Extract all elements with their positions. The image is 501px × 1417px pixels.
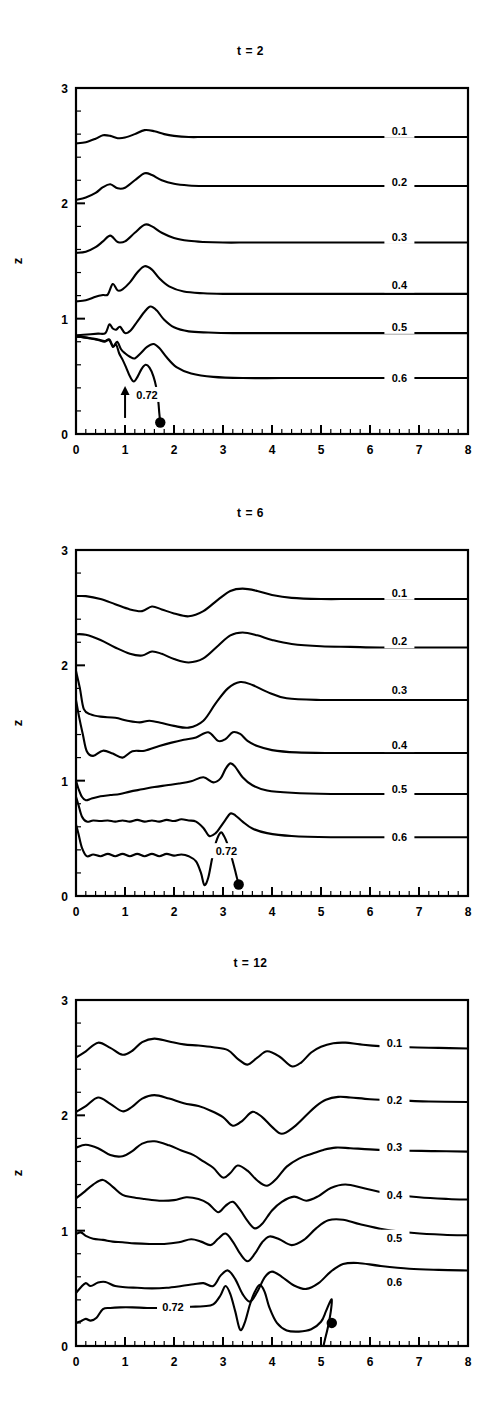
contour-plot-svg: 0123456780123xz0.10.20.30.40.50.60.72 — [0, 972, 501, 1372]
y-tick-label: 2 — [61, 1109, 68, 1123]
contour-level-label: 0.1 — [387, 1037, 402, 1049]
x-tick-label: 1 — [122, 1355, 129, 1369]
x-tick-label: 3 — [220, 1355, 227, 1369]
contour-line — [76, 671, 468, 728]
annotation-0-72-label: 0.72 — [136, 389, 157, 401]
contour-level-label: 0.2 — [387, 1094, 402, 1106]
x-tick-label: 6 — [367, 905, 374, 919]
y-tick-label: 1 — [61, 1225, 68, 1239]
contour-panel-t12: t = 12 0123456780123xz0.10.20.30.40.50.6… — [0, 956, 501, 1376]
y-axis-title: z — [10, 257, 25, 264]
panel-title-t6: t = 6 — [0, 506, 501, 520]
y-tick-label: 1 — [61, 775, 68, 789]
x-tick-label: 1 — [122, 905, 129, 919]
x-tick-label: 5 — [318, 443, 325, 457]
x-tick-label: 5 — [318, 1355, 325, 1369]
contour-panel-t6: t = 6 0123456780123xz0.10.20.30.40.50.60… — [0, 506, 501, 926]
interface-marker-dot — [155, 417, 165, 427]
contour-plot-svg: 0123456780123xz0.10.20.30.40.50.60.72 — [0, 522, 501, 922]
contour-line — [76, 1285, 332, 1346]
y-tick-label: 0 — [61, 890, 68, 904]
y-tick-label: 1 — [61, 313, 68, 327]
y-tick-label: 0 — [61, 428, 68, 442]
contour-panel-t2: t = 2 0123456780123xz0.10.20.30.40.50.60… — [0, 44, 501, 464]
y-tick-label: 2 — [61, 659, 68, 673]
y-tick-label: 3 — [61, 82, 68, 96]
contour-level-label: 0.5 — [387, 1232, 402, 1244]
contour-level-label: 0.3 — [392, 231, 407, 243]
contour-level-label: 0.3 — [387, 1141, 402, 1153]
y-axis-title: z — [10, 719, 25, 726]
x-tick-label: 7 — [416, 443, 423, 457]
x-tick-label: 0 — [73, 1355, 80, 1369]
contour-line — [76, 337, 160, 423]
contour-level-label: 0.2 — [392, 635, 407, 647]
annotation-0-72-label: 0.72 — [162, 1301, 183, 1313]
x-tick-label: 1 — [122, 443, 129, 457]
plot-area-t12: 0123456780123xz0.10.20.30.40.50.60.72 — [0, 972, 501, 1372]
contour-level-label: 0.1 — [392, 125, 407, 137]
y-tick-label: 2 — [61, 197, 68, 211]
x-tick-label: 7 — [416, 905, 423, 919]
contour-level-label: 0.4 — [392, 739, 408, 751]
x-tick-label: 8 — [465, 443, 472, 457]
panel-title-t2: t = 2 — [0, 44, 501, 58]
x-tick-label: 2 — [171, 905, 178, 919]
x-tick-label: 0 — [73, 443, 80, 457]
contour-level-label: 0.2 — [392, 176, 407, 188]
contour-level-label: 0.5 — [392, 321, 407, 333]
panel-title-t12: t = 12 — [0, 956, 501, 970]
plot-area-t6: 0123456780123xz0.10.20.30.40.50.60.72 — [0, 522, 501, 922]
y-tick-label: 3 — [61, 994, 68, 1008]
contour-level-label: 0.1 — [392, 587, 407, 599]
y-tick-label: 3 — [61, 544, 68, 558]
x-tick-label: 5 — [318, 905, 325, 919]
contour-level-label: 0.4 — [387, 1189, 403, 1201]
annotation-0-72-label: 0.72 — [216, 845, 237, 857]
x-tick-label: 6 — [367, 1355, 374, 1369]
plot-area-t2: 0123456780123xz0.10.20.30.40.50.60.72 — [0, 60, 501, 460]
contour-level-label: 0.4 — [392, 279, 408, 291]
x-tick-label: 6 — [367, 443, 374, 457]
contour-level-label: 0.3 — [392, 684, 407, 696]
x-tick-label: 2 — [171, 1355, 178, 1369]
x-tick-label: 4 — [269, 905, 276, 919]
interface-marker-dot — [327, 1318, 337, 1328]
x-tick-label: 8 — [465, 905, 472, 919]
contour-level-label: 0.6 — [392, 372, 407, 384]
x-tick-label: 2 — [171, 443, 178, 457]
contour-level-label: 0.5 — [392, 783, 407, 795]
x-tick-label: 4 — [269, 1355, 276, 1369]
y-axis-title: z — [10, 1169, 25, 1176]
x-tick-label: 3 — [220, 905, 227, 919]
interface-marker-dot — [233, 879, 243, 889]
annotation-arrow-head — [121, 386, 130, 395]
x-tick-label: 3 — [220, 443, 227, 457]
contour-level-label: 0.6 — [392, 831, 407, 843]
contour-plot-svg: 0123456780123xz0.10.20.30.40.50.60.72 — [0, 60, 501, 460]
contour-level-label: 0.6 — [387, 1276, 402, 1288]
y-tick-label: 0 — [61, 1340, 68, 1354]
x-tick-label: 0 — [73, 905, 80, 919]
x-tick-label: 4 — [269, 443, 276, 457]
x-tick-label: 8 — [465, 1355, 472, 1369]
x-tick-label: 7 — [416, 1355, 423, 1369]
